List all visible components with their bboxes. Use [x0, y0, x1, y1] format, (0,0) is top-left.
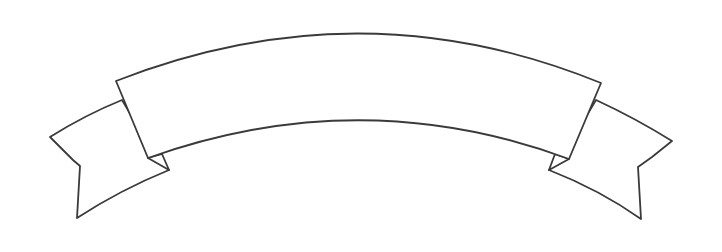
ribbon-banner-graphic [0, 0, 722, 252]
ribbon-main-band [116, 33, 601, 159]
ribbon-banner-canvas [0, 0, 722, 252]
